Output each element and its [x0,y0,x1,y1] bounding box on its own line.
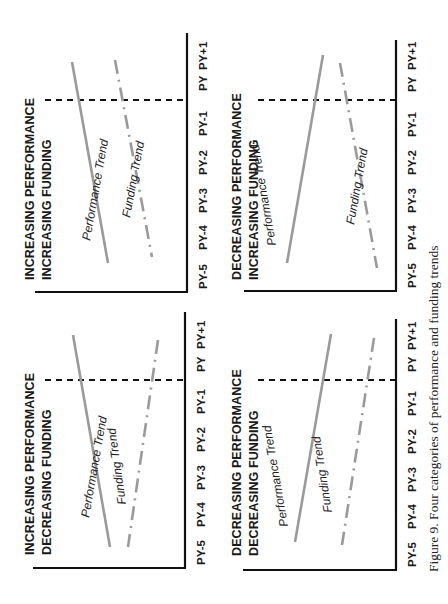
funding-trend-label: Funding Trend [104,427,129,506]
tick-label: PY+1 [406,41,418,70]
x-tick-labels: PY-5 PY-4 PY-3 PY-2 PY-1 PY PY+1 [197,41,209,289]
tick-label: PY-3 [406,467,418,492]
panel-title-line1: INCREASING PERFORMANCE [23,373,37,555]
panel-title-line2: DECREASING FUNDING [40,409,54,555]
tick-label: PY-2 [406,429,418,454]
tick-label: PY [406,76,418,92]
tick-label: PY-4 [406,224,418,250]
panel-dec-perf-dec-fund: DECREASING PERFORMANCE DECREASING FUNDIN… [230,319,418,570]
tick-label: PY-3 [406,188,418,213]
performance-trend-line [287,55,323,263]
figure: INCREASING PERFORMANCE INCREASING FUNDIN… [0,0,448,604]
tick-label: PY-3 [197,188,209,213]
panel-title-line1: DECREASING PERFORMANCE [230,369,244,556]
panel-inc-perf-inc-fund: INCREASING PERFORMANCE INCREASING FUNDIN… [23,33,209,292]
tick-label: PY-5 [406,262,418,288]
tick-label: PY-5 [406,541,418,567]
x-tick-labels: PY-5 PY-4 PY-3 PY-2 PY-1 PY PY+1 [406,321,418,567]
performance-trend-label: Performance Trend [260,424,291,528]
panel-title-line1: INCREASING PERFORMANCE [23,98,37,280]
panel-title-line2: INCREASING FUNDING [40,139,54,280]
tick-label: PY+1 [195,320,207,349]
panel-dec-perf-inc-fund: DECREASING PERFORMANCE INCREASING FUNDIN… [230,40,418,291]
tick-label: PY-4 [195,501,207,527]
x-tick-labels: PY-5 PY-4 PY-3 PY-2 PY-1 PY PY+1 [406,41,418,288]
tick-label: PY-1 [406,390,418,416]
tick-label: PY-1 [195,388,207,414]
tick-label: PY-3 [195,465,207,490]
tick-label: PY+1 [197,41,209,70]
performance-trend-label: Performance Trend [79,138,111,242]
tick-label: PY [197,75,209,91]
tick-label: PY [406,356,418,372]
tick-label: PY-4 [406,503,418,529]
funding-trend-label: Funding Trend [309,435,335,514]
panel-inc-perf-dec-fund: INCREASING PERFORMANCE DECREASING FUNDIN… [23,312,207,568]
tick-label: PY-5 [195,539,207,565]
tick-label: PY-2 [195,427,207,452]
tick-label: PY+1 [406,321,418,350]
figure-caption: Figure 9. Four categories of performance… [426,245,441,572]
tick-label: PY-5 [197,263,209,289]
funding-trend-line [342,338,374,545]
x-tick-labels: PY-5 PY-4 PY-3 PY-2 PY-1 PY PY+1 [195,320,207,565]
tick-label: PY-1 [197,110,209,136]
tick-label: PY-2 [197,150,209,175]
panel-title-line1: DECREASING PERFORMANCE [230,93,244,280]
tick-label: PY [195,356,207,372]
panel-title-line2: DECREASING FUNDING [247,410,261,556]
tick-label: PY-4 [197,224,209,250]
tick-label: PY-2 [406,150,418,175]
tick-label: PY-1 [406,111,418,137]
funding-trend-line [128,340,158,547]
